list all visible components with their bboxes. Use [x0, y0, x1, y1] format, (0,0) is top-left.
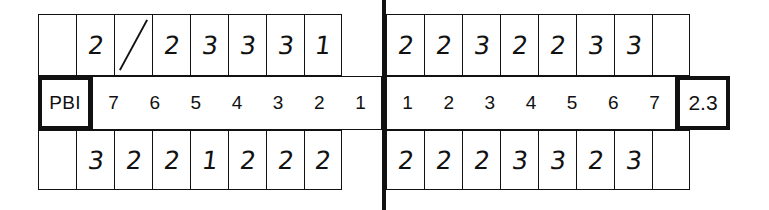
- score-value: 2: [434, 148, 453, 173]
- score-value: 3: [86, 148, 105, 173]
- pbi-result-box[interactable]: 2.3: [676, 76, 730, 130]
- tooth-number: 2: [428, 92, 469, 114]
- pbi-label-box: PBI: [38, 76, 92, 130]
- pbi-dental-chart: 2 2 3 3 3 1: [0, 0, 769, 210]
- tooth-number: 5: [175, 92, 216, 114]
- midline-divider: [382, 0, 386, 210]
- score-cell[interactable]: 3: [462, 14, 500, 76]
- score-value: 3: [238, 33, 257, 58]
- score-cell[interactable]: 2: [576, 130, 614, 190]
- score-cell[interactable]: 3: [614, 130, 652, 190]
- score-cell[interactable]: 2: [76, 14, 114, 76]
- corner-spacer-top-left: [38, 14, 76, 76]
- score-value: 2: [162, 33, 181, 58]
- chart-left-half: 2 2 3 3 3 1: [38, 14, 382, 190]
- score-value: 3: [472, 33, 491, 58]
- score-cell[interactable]: 1: [190, 130, 228, 190]
- score-cell[interactable]: 2: [424, 14, 462, 76]
- tooth-number: 7: [93, 92, 134, 114]
- score-cell[interactable]: 3: [76, 130, 114, 190]
- tooth-number: 2: [299, 92, 340, 114]
- pbi-result-value: 2.3: [688, 91, 717, 115]
- score-cell[interactable]: 2: [500, 14, 538, 76]
- score-cell-missing-tooth[interactable]: [114, 14, 152, 76]
- score-cell[interactable]: 2: [114, 130, 152, 190]
- score-value: 3: [624, 33, 643, 58]
- upper-right-score-row: 2 2 3 3 3 1: [38, 14, 382, 76]
- score-value: 2: [314, 148, 333, 173]
- score-cell[interactable]: 2: [228, 130, 266, 190]
- score-cell[interactable]: 2: [386, 14, 424, 76]
- tooth-number: 5: [552, 92, 593, 114]
- score-cell[interactable]: 2: [304, 130, 342, 190]
- score-value: 2: [434, 33, 453, 58]
- score-value: 2: [472, 148, 491, 173]
- tooth-number: 4: [216, 92, 257, 114]
- score-cell[interactable]: 2: [266, 130, 304, 190]
- score-cell[interactable]: 3: [266, 14, 304, 76]
- tooth-number: 6: [593, 92, 634, 114]
- score-value: 1: [200, 148, 219, 173]
- score-value: 2: [162, 148, 181, 173]
- score-value: 3: [624, 148, 643, 173]
- tooth-number: 6: [134, 92, 175, 114]
- upper-left-tooth-number-row: 1 2 3 4 5 6 7 2.3: [386, 76, 730, 130]
- corner-spacer-bottom-right: [652, 130, 690, 190]
- corner-spacer-top-right: [652, 14, 690, 76]
- missing-tooth-slash-icon: [115, 15, 152, 75]
- score-cell[interactable]: 2: [424, 130, 462, 190]
- score-cell[interactable]: 1: [304, 14, 342, 76]
- score-value: 2: [86, 33, 105, 58]
- score-value: 3: [200, 33, 219, 58]
- score-cell[interactable]: 3: [538, 130, 576, 190]
- score-cell[interactable]: 2: [152, 14, 190, 76]
- tooth-number: 4: [510, 92, 551, 114]
- score-cell[interactable]: 3: [576, 14, 614, 76]
- score-value: 3: [548, 148, 567, 173]
- lower-right-score-row: 3 2 2 1 2 2 2: [38, 130, 382, 190]
- score-cell[interactable]: 3: [500, 130, 538, 190]
- tooth-number: 7: [634, 92, 675, 114]
- upper-right-tooth-number-row: PBI 7 6 5 4 3 2 1: [38, 76, 382, 130]
- score-cell[interactable]: 3: [190, 14, 228, 76]
- score-value: 2: [276, 148, 295, 173]
- score-cell[interactable]: 3: [228, 14, 266, 76]
- score-cell[interactable]: 2: [538, 14, 576, 76]
- pbi-label-text: PBI: [49, 92, 81, 114]
- score-cell[interactable]: 2: [152, 130, 190, 190]
- score-value: 2: [510, 33, 529, 58]
- score-value: 2: [548, 33, 567, 58]
- tooth-number-strip-right: 1 2 3 4 5 6 7: [386, 76, 676, 130]
- score-value: 2: [396, 33, 415, 58]
- score-value: 3: [586, 33, 605, 58]
- score-value: 2: [396, 148, 415, 173]
- score-value: 3: [276, 33, 295, 58]
- lower-left-score-row: 2 2 2 3 3 2 3: [386, 130, 730, 190]
- tooth-number: 3: [469, 92, 510, 114]
- chart-right-half: 2 2 3 2 2 3 3 1: [386, 14, 730, 190]
- score-cell[interactable]: 3: [614, 14, 652, 76]
- tooth-number: 1: [387, 92, 428, 114]
- score-value: 2: [238, 148, 257, 173]
- score-value: 3: [510, 148, 529, 173]
- tooth-number-strip-left: 7 6 5 4 3 2 1: [92, 76, 382, 130]
- score-value: 2: [124, 148, 143, 173]
- score-value: 1: [314, 33, 333, 58]
- corner-spacer-bottom-left: [38, 130, 76, 190]
- score-cell[interactable]: 2: [386, 130, 424, 190]
- upper-left-score-row: 2 2 3 2 2 3 3: [386, 14, 730, 76]
- tooth-number: 1: [340, 92, 381, 114]
- score-cell[interactable]: 2: [462, 130, 500, 190]
- tooth-number: 3: [258, 92, 299, 114]
- score-value: 2: [586, 148, 605, 173]
